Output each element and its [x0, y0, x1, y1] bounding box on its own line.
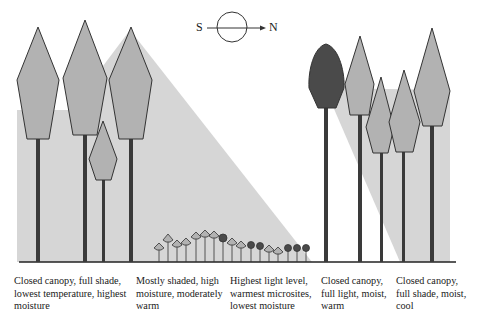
caption-closed-canopy-full-shade-cold: Closed canopy, full shade, lowest temper…: [14, 275, 126, 313]
sun-compass-icon: [207, 12, 266, 42]
tree-dark-broadleaf: [309, 44, 344, 262]
caption-closed-canopy-full-light: Closed canopy, full light, moist, warm: [321, 275, 387, 313]
caption-mostly-shaded: Mostly shaded, high moisture, moderately…: [136, 275, 223, 313]
caption-gap-center: Highest light level, warmest microsites,…: [230, 275, 311, 313]
forest-gap-diagram: [0, 0, 480, 270]
compass-south-label: S: [196, 20, 203, 35]
compass-north-label: N: [269, 20, 278, 35]
caption-closed-canopy-full-shade-cool: Closed canopy, full shade, moist, cool: [396, 275, 466, 313]
